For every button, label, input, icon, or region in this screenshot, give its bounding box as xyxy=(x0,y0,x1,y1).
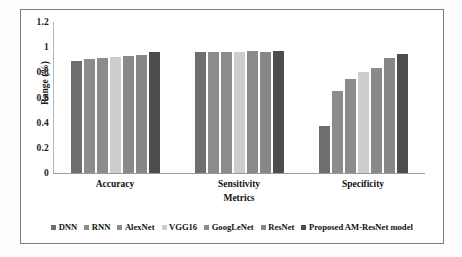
bars-layer xyxy=(53,22,425,173)
y-axis-tick-label: 1.2 xyxy=(37,17,49,27)
bar[interactable] xyxy=(123,56,134,173)
legend-item-label: VGG16 xyxy=(169,223,197,232)
legend-item-label: Proposed AM-ResNet model xyxy=(309,223,413,232)
bar[interactable] xyxy=(319,126,330,173)
legend-item[interactable]: VGG16 xyxy=(162,223,198,232)
legend-item-label: ResNet xyxy=(268,223,294,232)
bar[interactable] xyxy=(221,52,232,173)
x-axis-title: Metrics xyxy=(53,193,425,203)
chart-figure: 00.20.40.60.811.2 Range (%) Metrics DNNR… xyxy=(0,0,462,257)
bar[interactable] xyxy=(84,59,95,174)
bar-group xyxy=(195,22,284,173)
bar[interactable] xyxy=(384,58,395,173)
bar[interactable] xyxy=(149,52,160,173)
x-axis-line xyxy=(53,173,425,174)
legend-item[interactable]: RNN xyxy=(84,223,110,232)
legend-swatch-icon xyxy=(261,225,266,230)
y-axis-title: Range (%) xyxy=(40,33,50,133)
legend-item-label: GoogLeNet xyxy=(212,223,254,232)
bar-group xyxy=(71,22,160,173)
legend-swatch-icon xyxy=(301,225,306,230)
legend-item-label: RNN xyxy=(92,223,111,232)
legend-item[interactable]: ResNet xyxy=(261,223,295,232)
bar[interactable] xyxy=(358,72,369,173)
bar[interactable] xyxy=(208,52,219,173)
x-axis-tick-label: Accuracy xyxy=(53,179,177,189)
legend-swatch-icon xyxy=(117,225,122,230)
bar[interactable] xyxy=(247,51,258,173)
chart-legend: DNNRNNAlexNetVGG16GoogLeNetResNetPropose… xyxy=(20,223,444,232)
bar[interactable] xyxy=(136,55,147,173)
legend-item[interactable]: Proposed AM-ResNet model xyxy=(301,223,412,232)
bar[interactable] xyxy=(110,57,121,173)
legend-item[interactable]: AlexNet xyxy=(117,223,154,232)
bar[interactable] xyxy=(260,52,271,173)
bar[interactable] xyxy=(71,61,82,173)
x-axis-tick-label: Sensitivity xyxy=(177,179,301,189)
legend-swatch-icon xyxy=(84,225,89,230)
bar[interactable] xyxy=(371,68,382,173)
y-axis-tick-label: 0 xyxy=(44,168,49,178)
bar[interactable] xyxy=(397,54,408,173)
y-axis-tick-label: 0.2 xyxy=(37,143,49,153)
bar[interactable] xyxy=(332,91,343,173)
bar[interactable] xyxy=(234,52,245,173)
legend-swatch-icon xyxy=(51,225,56,230)
legend-swatch-icon xyxy=(204,225,209,230)
legend-item-label: AlexNet xyxy=(125,223,155,232)
bar[interactable] xyxy=(195,52,206,173)
legend-item-label: DNN xyxy=(59,223,78,232)
bar[interactable] xyxy=(273,51,284,173)
legend-item[interactable]: DNN xyxy=(51,223,77,232)
bar[interactable] xyxy=(345,79,356,173)
legend-swatch-icon xyxy=(162,225,167,230)
bar[interactable] xyxy=(97,58,108,173)
bar-group xyxy=(319,22,408,173)
x-axis-tick-label: Specificity xyxy=(301,179,425,189)
legend-item[interactable]: GoogLeNet xyxy=(204,223,254,232)
